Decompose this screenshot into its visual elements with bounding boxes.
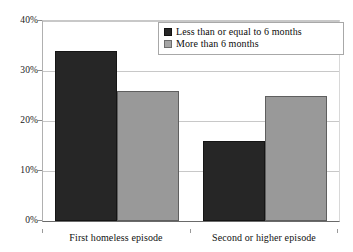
x-tick-mark-2 [337,229,338,233]
legend-label-series-1: More than 6 months [176,38,259,50]
legend-swatch-icon-series-1 [164,40,172,48]
x-tick-mark-0 [42,229,43,233]
x-tick-label-1: Second or higher episode [190,232,338,244]
y-tick-label-40: 40% [4,15,38,25]
chart-legend: Less than or equal to 6 months More than… [158,22,344,55]
y-axis: 0%10%20%30%40% [0,0,38,252]
bar-group-1-series-0 [203,141,265,221]
bar-chart: 0%10%20%30%40% First homeless episodeSec… [0,0,353,252]
y-tick-label-20: 20% [4,115,38,125]
y-tick-label-10: 10% [4,165,38,175]
legend-swatch-icon-series-0 [164,28,172,36]
legend-item-0[interactable]: Less than or equal to 6 months [164,26,338,38]
bar-group-0-series-1 [117,91,179,221]
bar-group-1-series-1 [265,96,327,221]
x-tick-mark-1 [190,229,191,233]
y-tick-label-30: 30% [4,65,38,75]
legend-label-series-0: Less than or equal to 6 months [176,26,302,38]
bar-group-0-series-0 [55,51,117,221]
x-tick-label-0: First homeless episode [42,232,190,244]
legend-item-1[interactable]: More than 6 months [164,38,338,50]
x-axis: First homeless episodeSecond or higher e… [42,229,340,251]
y-tick-label-0: 0% [4,215,38,225]
